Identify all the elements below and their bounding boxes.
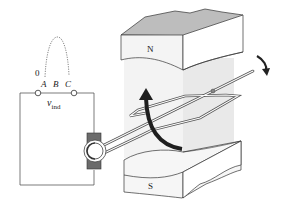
waveform-a-label: A (41, 80, 47, 89)
commutator (84, 133, 106, 169)
terminal-right (71, 90, 77, 96)
voltage-waveform (45, 37, 69, 77)
south-pole-label: S (148, 182, 153, 191)
dc-machine-diagram (0, 0, 284, 213)
terminal-left (35, 90, 41, 96)
rotation-arrow-small (257, 56, 266, 70)
waveform-zero-label: 0 (35, 69, 40, 78)
north-pole-label: N (147, 45, 154, 54)
waveform-b-label: B (53, 80, 59, 89)
induced-voltage-label: vind (47, 98, 60, 111)
voltage-subscript: ind (51, 103, 60, 111)
waveform-c-label: C (65, 80, 71, 89)
